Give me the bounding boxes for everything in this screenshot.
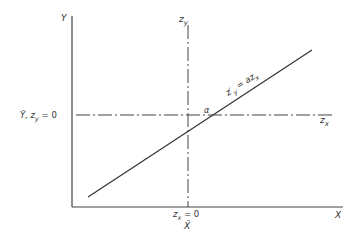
regression-line bbox=[88, 50, 312, 197]
x-bar-label: X̄ bbox=[183, 220, 191, 231]
x-axis-label: X bbox=[334, 210, 342, 220]
y-axis-label: Y bbox=[61, 13, 68, 23]
zx-axis-label: zx bbox=[319, 115, 330, 128]
y-mean-label: Ȳ, zy = 0 bbox=[20, 110, 57, 123]
regression-diagram: Y zy Ȳ, zy = 0 zx X zx = 0 X̄ α z′y = az… bbox=[0, 0, 362, 240]
zy-axis-label: zy bbox=[178, 14, 189, 27]
angle-alpha-label: α bbox=[204, 106, 210, 115]
